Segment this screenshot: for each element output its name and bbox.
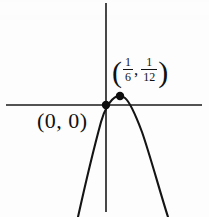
plot-canvas bbox=[0, 0, 209, 217]
vertex-y-denominator: 12 bbox=[141, 71, 157, 84]
parabola-curve bbox=[78, 96, 168, 217]
parabola-figure: (0, 0) (16,112) bbox=[0, 0, 209, 217]
vertex-close-paren: ) bbox=[158, 55, 168, 88]
vertex-open-paren: ( bbox=[112, 55, 122, 88]
vertex-x-denominator: 6 bbox=[123, 71, 133, 84]
vertex-y-numerator: 1 bbox=[141, 56, 157, 69]
vertex-x-numerator: 1 bbox=[123, 56, 133, 69]
origin-point-marker bbox=[102, 101, 110, 109]
vertex-point-label: (16,112) bbox=[112, 56, 168, 83]
vertex-y-fraction: 112 bbox=[141, 56, 157, 83]
origin-point-label: (0, 0) bbox=[37, 110, 88, 132]
vertex-comma: , bbox=[134, 60, 140, 79]
vertex-point-marker bbox=[116, 92, 124, 100]
vertex-x-fraction: 16 bbox=[123, 56, 133, 83]
